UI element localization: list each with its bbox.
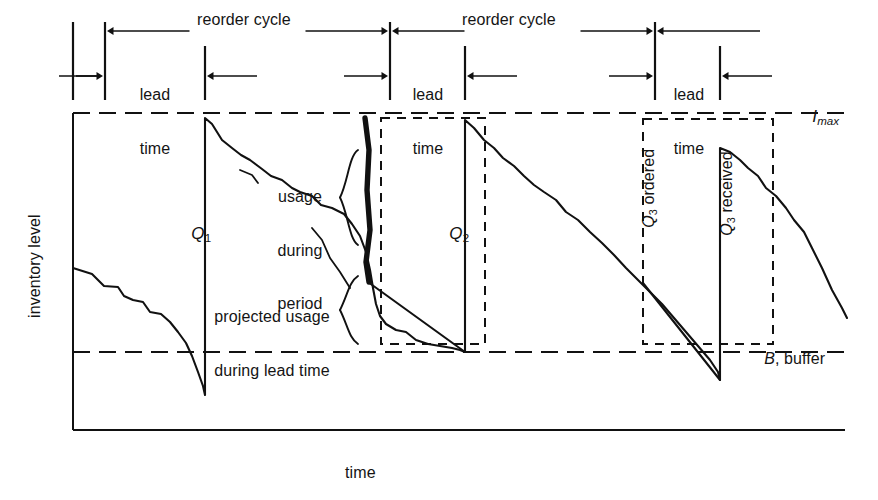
q2-symbol: Q [449, 224, 462, 243]
annotation-line: during lead time [186, 362, 358, 380]
annotation-line: usage [264, 188, 336, 206]
lead-time-arrowhead-out-2 [722, 72, 729, 80]
buffer-symbol: B [764, 350, 775, 367]
annotation-line: during [264, 242, 336, 260]
usage-label-connector-upper [240, 170, 258, 183]
q3-ordered-symbol: Q [640, 215, 657, 228]
q3-received-text: received [718, 151, 735, 217]
inventory-diagram: inventory level time Imax B, buffer reor… [0, 0, 878, 500]
lead-time-label-2: lead time [398, 50, 458, 193]
lead-time-label-1: lead time [121, 50, 189, 193]
q1-label: Q1 [172, 205, 211, 264]
reorder-cycle-arrowhead-right-1 [647, 27, 654, 35]
x-axis-label: time [345, 464, 376, 482]
lead-time-line1: lead [398, 86, 458, 104]
reorder-cycle-arrowhead-right-0 [382, 27, 389, 35]
buffer-text: , buffer [775, 350, 825, 367]
q2-label: Q2 [430, 205, 469, 264]
reorder-cycle-label-1: reorder cycle [197, 11, 291, 29]
y-axis-label: inventory level [26, 214, 44, 318]
q3-received-symbol: Q [718, 223, 735, 236]
q1-subscript: 1 [205, 232, 212, 244]
annotation-line: projected usage [186, 308, 358, 326]
projected-usage-line-cycle2 [368, 282, 465, 352]
buffer-label: B, buffer [746, 332, 825, 386]
lead-time-line1: lead [121, 86, 189, 104]
reorder-cycle-arrowhead-left-1 [392, 27, 399, 35]
q3-ordered-text: ordered [640, 149, 657, 209]
q3-received-label: Q3 received [700, 151, 755, 254]
projected-usage-line-cycle3 [643, 283, 720, 380]
lead-time-arrowhead-in-1 [382, 72, 389, 80]
reorder-cycle-arrowhead-left-0 [107, 27, 114, 35]
lead-time-arrowhead-out-0 [207, 72, 214, 80]
reorder-cycle-label-2: reorder cycle [462, 11, 556, 29]
lead-time-arrowhead-in-2 [647, 72, 654, 80]
usage-period-emphasis-stroke [365, 118, 370, 282]
lead-time-arrowhead-out-1 [467, 72, 474, 80]
q3-ordered-subscript: 3 [647, 209, 659, 215]
projected-usage-label: projected usage during lead time [186, 272, 358, 415]
q2-subscript: 2 [463, 232, 470, 244]
q3-ordered-label: Q3 ordered [622, 149, 677, 246]
q1-symbol: Q [191, 224, 204, 243]
lead-time-line2: time [121, 140, 189, 158]
i-max-label: Imax [793, 88, 839, 147]
lead-time-line1: lead [660, 86, 718, 104]
usage-during-period-brace-upper [340, 150, 358, 198]
lead-time-line2: time [398, 140, 458, 158]
i-max-subscript: max [817, 115, 839, 127]
reorder-cycle-tail-arrowhead [657, 27, 664, 35]
q3-received-subscript: 3 [725, 217, 737, 223]
